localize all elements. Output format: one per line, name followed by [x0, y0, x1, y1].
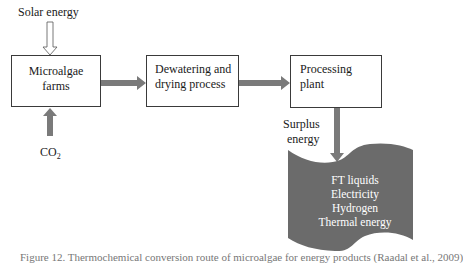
solar-energy-arrow	[43, 22, 57, 55]
dewatering-drying-box: Dewatering and drying process	[146, 55, 239, 107]
microalgae-farms-line2: farms	[12, 79, 100, 94]
dewatering-drying-line1: Dewatering and	[155, 62, 238, 77]
surplus-energy-label: Surplus energy	[283, 117, 320, 147]
microalgae-farms-line1: Microalgae	[12, 64, 100, 79]
arrow-processing-to-outputs	[330, 108, 344, 162]
processing-plant-line2: plant	[300, 77, 381, 92]
processing-plant-line1: Processing	[300, 62, 381, 77]
arrow-dewatering-to-processing	[239, 76, 290, 90]
output-item: Hydrogen	[300, 201, 410, 215]
dewatering-drying-line2: drying process	[155, 77, 238, 92]
output-item: Electricity	[300, 187, 410, 201]
solar-energy-label: Solar energy	[18, 5, 79, 19]
surplus-line2: energy	[283, 132, 320, 147]
figure-caption: Figure 12. Thermochemical conversion rou…	[20, 251, 463, 263]
co2-text: CO	[40, 145, 57, 159]
co2-subscript: 2	[57, 152, 61, 161]
processing-plant-box: Processing plant	[290, 55, 382, 108]
co2-arrow	[43, 108, 57, 136]
arrow-farms-to-dewatering	[101, 76, 146, 90]
co2-label: CO2	[40, 145, 61, 164]
output-item: FT liquids	[300, 173, 410, 187]
microalgae-farms-box: Microalgae farms	[11, 55, 101, 107]
surplus-line1: Surplus	[283, 117, 320, 132]
outputs-list: FT liquids Electricity Hydrogen Thermal …	[300, 173, 410, 229]
output-item: Thermal energy	[300, 215, 410, 229]
